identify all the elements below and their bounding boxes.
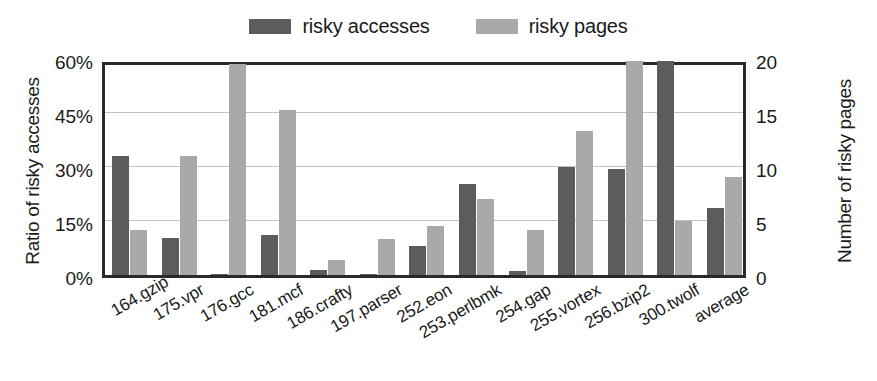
bar-group xyxy=(650,65,700,275)
bar-risky-accesses xyxy=(409,246,426,275)
bar-risky-accesses xyxy=(162,238,179,275)
bar-risky-pages xyxy=(180,156,197,275)
y-axis-title-left: Ratio of risky accesses xyxy=(22,61,44,281)
bar-group xyxy=(353,65,403,275)
bar-risky-pages xyxy=(527,230,544,275)
y-tick-label-left: 0% xyxy=(66,269,93,288)
legend-swatch-risky-accesses xyxy=(249,19,291,34)
bar-group xyxy=(204,65,254,275)
bar-risky-pages xyxy=(675,221,692,275)
bar-risky-accesses xyxy=(509,271,526,275)
y-tick-label-right: 20 xyxy=(756,53,777,72)
legend-label-risky-accesses: risky accesses xyxy=(302,16,429,36)
bar-risky-pages xyxy=(427,226,444,275)
y-tick-label-left: 60% xyxy=(55,53,93,72)
bar-risky-pages xyxy=(328,260,345,275)
bar-risky-accesses xyxy=(211,274,228,275)
bar-group xyxy=(501,65,551,275)
bar-risky-accesses xyxy=(707,208,724,275)
bar-group xyxy=(303,65,353,275)
legend-entry-risky-accesses: risky accesses xyxy=(249,16,429,36)
legend-label-risky-pages: risky pages xyxy=(529,16,628,36)
plot-area xyxy=(102,62,746,278)
y-tick-label-right: 0 xyxy=(756,269,767,288)
bar-group xyxy=(452,65,502,275)
y-tick-label-left: 30% xyxy=(55,161,93,180)
bar-risky-accesses xyxy=(310,270,327,275)
y-tick-label-left: 15% xyxy=(55,215,93,234)
bar-risky-pages xyxy=(130,230,147,275)
bar-risky-accesses xyxy=(558,167,575,275)
chart-figure: risky accesses risky pages Ratio of risk… xyxy=(0,0,877,381)
bar-series-container xyxy=(105,65,743,275)
bar-group xyxy=(402,65,452,275)
bar-risky-pages xyxy=(576,131,593,275)
bar-risky-accesses xyxy=(608,169,625,275)
bar-risky-pages xyxy=(378,239,395,275)
bar-risky-accesses xyxy=(112,156,129,275)
chart-legend: risky accesses risky pages xyxy=(0,16,877,36)
bar-group xyxy=(699,65,749,275)
bar-group xyxy=(105,65,155,275)
y-tick-label-left: 45% xyxy=(55,107,93,126)
bar-group xyxy=(254,65,304,275)
bar-risky-accesses xyxy=(261,235,278,275)
y-tick-label-right: 10 xyxy=(756,161,777,180)
x-axis-tick-labels: 164.gzip175.vpr176.gcc181.mcf186.crafty1… xyxy=(102,281,746,381)
bar-risky-accesses xyxy=(459,184,476,275)
bar-risky-pages xyxy=(229,64,246,275)
legend-swatch-risky-pages xyxy=(476,19,518,34)
bar-risky-pages xyxy=(626,61,643,275)
bar-group xyxy=(155,65,205,275)
legend-entry-risky-pages: risky pages xyxy=(476,16,628,36)
bar-risky-pages xyxy=(725,177,742,275)
bar-group xyxy=(600,65,650,275)
y-tick-label-right: 5 xyxy=(756,215,767,234)
y-axis-title-right: Number of risky pages xyxy=(834,61,856,281)
bar-risky-accesses xyxy=(360,274,377,275)
y-tick-label-right: 15 xyxy=(756,107,777,126)
bar-risky-accesses xyxy=(657,61,674,275)
bar-risky-pages xyxy=(477,199,494,275)
bar-group xyxy=(551,65,601,275)
bar-risky-pages xyxy=(279,110,296,275)
